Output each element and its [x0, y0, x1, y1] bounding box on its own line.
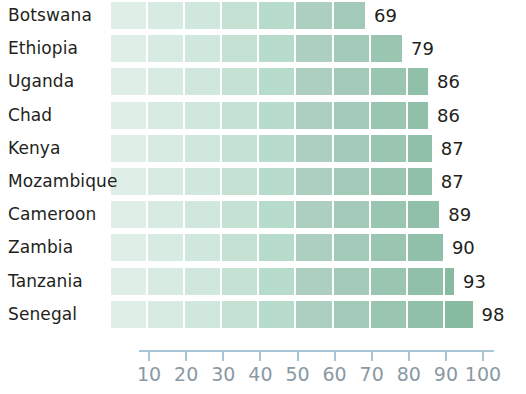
bar-segment	[185, 102, 220, 129]
bar-segment	[408, 201, 439, 228]
bar	[111, 301, 475, 328]
x-axis-tick-label: 80	[397, 363, 421, 385]
bar-category-label: Botswana	[8, 2, 92, 29]
bar	[111, 234, 445, 261]
bar-segment	[148, 168, 183, 195]
bar-value-label: 79	[411, 35, 434, 62]
bar-category-label: Tanzania	[8, 268, 83, 295]
bar-value-label: 90	[452, 234, 475, 261]
bar-segment	[334, 268, 369, 295]
x-axis-tick-label: 30	[211, 363, 235, 385]
bar-segment	[296, 135, 331, 162]
bar-segment	[222, 2, 257, 29]
bar-segment	[334, 301, 369, 328]
bar-segment	[371, 35, 402, 62]
bar-row: Kenya87	[0, 135, 526, 162]
bar-value-label: 87	[441, 135, 464, 162]
x-axis-tick	[259, 350, 261, 361]
bar-segment	[148, 135, 183, 162]
x-axis-tick	[334, 350, 336, 361]
bar-segment	[148, 68, 183, 95]
bar-segment	[408, 102, 428, 129]
bar-segment	[111, 135, 146, 162]
bar-row: Botswana69	[0, 2, 526, 29]
bar-segment	[148, 301, 183, 328]
bar-segment	[259, 201, 294, 228]
bar-row: Senegal98	[0, 301, 526, 328]
bar-segment	[334, 102, 369, 129]
bar-value-label: 89	[448, 201, 471, 228]
bar-segment	[296, 102, 331, 129]
x-axis-tick-label: 60	[323, 363, 347, 385]
bar-segment	[111, 301, 146, 328]
bar-segment	[222, 102, 257, 129]
bar-segment	[259, 301, 294, 328]
bar-segment	[408, 168, 432, 195]
bar-row: Ethiopia79	[0, 35, 526, 62]
bar-segment	[185, 168, 220, 195]
bar-category-label: Uganda	[8, 68, 74, 95]
bar-segment	[111, 35, 146, 62]
bar-row: Cameroon89	[0, 201, 526, 228]
bar-segment	[111, 102, 146, 129]
bar-segment	[296, 268, 331, 295]
x-axis-line	[139, 350, 494, 352]
bar-segment	[259, 35, 294, 62]
bar-segment	[371, 102, 406, 129]
x-axis-tick-label: 90	[434, 363, 458, 385]
bar-segment	[408, 234, 443, 261]
bar-segment	[445, 268, 454, 295]
bar	[111, 102, 430, 129]
x-axis-tick-label: 50	[285, 363, 309, 385]
bar-value-label: 86	[437, 102, 460, 129]
x-axis-tick	[185, 350, 187, 361]
bar-segment	[408, 301, 443, 328]
bar	[111, 135, 434, 162]
bar	[111, 268, 456, 295]
bar-row: Mozambique87	[0, 168, 526, 195]
bar-segment	[222, 268, 257, 295]
bar-value-label: 86	[437, 68, 460, 95]
bar-segment	[296, 68, 331, 95]
horizontal-bar-chart: Botswana69Ethiopia79Uganda86Chad86Kenya8…	[0, 0, 526, 394]
bar-segment	[222, 234, 257, 261]
x-axis: 102030405060708090100	[0, 340, 526, 394]
x-axis-tick	[148, 350, 150, 361]
bar-segment	[185, 135, 220, 162]
bar-segment	[296, 234, 331, 261]
bar-segment	[259, 68, 294, 95]
bar-row: Tanzania93	[0, 268, 526, 295]
bar-row: Chad86	[0, 102, 526, 129]
bar-segment	[148, 2, 183, 29]
bar	[111, 168, 434, 195]
bar	[111, 201, 441, 228]
bar-segment	[371, 301, 406, 328]
bar-segment	[408, 135, 432, 162]
bar-segment	[334, 68, 369, 95]
x-axis-tick	[482, 350, 484, 361]
bar-row: Zambia90	[0, 234, 526, 261]
bar-segment	[185, 234, 220, 261]
bar-segment	[296, 301, 331, 328]
x-axis-tick-label: 10	[137, 363, 161, 385]
bar-segment	[222, 68, 257, 95]
bar-segment	[296, 35, 331, 62]
x-axis-tick	[222, 350, 224, 361]
bar-segment	[222, 168, 257, 195]
bar-segment	[371, 201, 406, 228]
bar-segment	[185, 68, 220, 95]
bar-segment	[259, 2, 294, 29]
bar	[111, 2, 367, 29]
x-axis-tick	[408, 350, 410, 361]
bar-category-label: Chad	[8, 102, 52, 129]
bar-segment	[371, 268, 406, 295]
bar-segment	[111, 2, 146, 29]
bar-segment	[371, 234, 406, 261]
bar-segment	[334, 234, 369, 261]
bar-segment	[259, 135, 294, 162]
bar-segment	[222, 201, 257, 228]
bar-segment	[296, 168, 331, 195]
x-axis-tick	[371, 350, 373, 361]
bar-segment	[296, 2, 331, 29]
bar-segment	[148, 35, 183, 62]
